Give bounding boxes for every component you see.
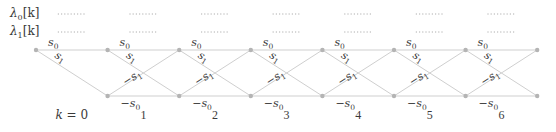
- node-top: [177, 48, 181, 52]
- stage-label: 3: [284, 108, 290, 122]
- trellis-edges: [36, 50, 537, 96]
- row-label-lambda0: λ0[k]: [9, 6, 39, 22]
- label-neg-s0: −s0: [121, 97, 141, 112]
- placeholder-dots: [58, 14, 516, 32]
- edge-labels: s0s1s0s1−s1−s0s0s1−s1−s0s0s1−s1−s0s0s1−s…: [48, 36, 503, 112]
- stage-label: k = 0: [55, 108, 88, 122]
- stage-label: 1: [140, 108, 146, 122]
- node-top: [320, 48, 324, 52]
- label-s0: s0: [478, 36, 489, 51]
- node-bottom: [463, 94, 467, 98]
- label-neg-s1: −s1: [478, 67, 502, 90]
- label-s0: s0: [406, 36, 417, 51]
- node-top: [105, 48, 109, 52]
- label-neg-s1: −s1: [407, 67, 431, 90]
- svg-text:λ1[k]: λ1[k]: [9, 24, 39, 40]
- node-bottom: [105, 94, 109, 98]
- node-top: [34, 48, 38, 52]
- row-label-lambda1: λ1[k]: [9, 24, 39, 40]
- label-s1: s1: [195, 49, 212, 67]
- trellis-diagram: λ0[k] λ1[k] s0s1s0s1−s1−s0s0s1−s1−s0s0s1…: [0, 0, 556, 132]
- node-bottom: [392, 94, 396, 98]
- stage-label: 5: [427, 108, 433, 122]
- edge-top-bottom: [36, 50, 108, 96]
- node-bottom: [249, 94, 253, 98]
- node-top: [249, 48, 253, 52]
- label-neg-s0: −s0: [335, 97, 355, 112]
- label-s1: s1: [52, 49, 69, 67]
- label-s1: s1: [410, 49, 427, 67]
- label-neg-s1: −s1: [120, 67, 144, 90]
- label-s1: s1: [266, 49, 283, 67]
- stage-label: 2: [212, 108, 218, 122]
- label-neg-s1: −s1: [335, 67, 359, 90]
- label-s0: s0: [191, 36, 202, 51]
- stage-label: 4: [355, 108, 361, 122]
- node-top: [392, 48, 396, 52]
- svg-text:λ0[k]: λ0[k]: [9, 6, 39, 22]
- node-bottom: [320, 94, 324, 98]
- label-s1: s1: [123, 49, 140, 67]
- label-neg-s0: −s0: [264, 97, 284, 112]
- label-neg-s0: −s0: [407, 97, 427, 112]
- label-neg-s1: −s1: [192, 67, 216, 90]
- stage-label: 6: [498, 108, 504, 122]
- label-s0: s0: [48, 36, 59, 51]
- node-top: [463, 48, 467, 52]
- label-s0: s0: [263, 36, 274, 51]
- label-neg-s0: −s0: [479, 97, 499, 112]
- label-neg-s1: −s1: [263, 67, 287, 90]
- label-s0: s0: [334, 36, 345, 51]
- label-s0: s0: [120, 36, 131, 51]
- label-neg-s0: −s0: [192, 97, 212, 112]
- label-s1: s1: [481, 49, 498, 67]
- label-s1: s1: [338, 49, 355, 67]
- node-top: [535, 48, 539, 52]
- node-bottom: [535, 94, 539, 98]
- node-bottom: [177, 94, 181, 98]
